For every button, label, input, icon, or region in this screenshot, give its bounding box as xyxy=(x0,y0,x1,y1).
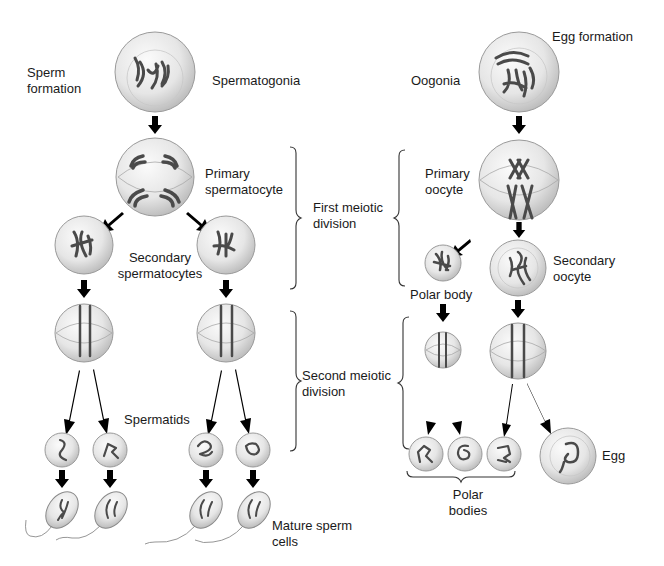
arrow-down-icon xyxy=(55,470,69,488)
arrow-down-icon xyxy=(426,384,439,435)
bracket-second-division-left xyxy=(290,311,301,451)
label-spermatids: Spermatids xyxy=(124,412,190,428)
spermatogonia-cell xyxy=(115,32,195,112)
polar-body-cell xyxy=(409,437,443,471)
second-division-oocyte-cell xyxy=(490,323,546,379)
title-egg-formation: Egg formation xyxy=(552,29,633,45)
bracket-polar-bodies xyxy=(407,471,515,482)
label-spermatogonia: Spermatogonia xyxy=(212,73,300,89)
arrow-down-icon xyxy=(235,369,251,434)
arrow-down-icon xyxy=(219,280,233,298)
primary-oocyte-cell xyxy=(479,140,559,220)
label-primary-spermatocyte: Primary spermatocyte xyxy=(205,166,295,198)
label-oogonia: Oogonia xyxy=(411,73,460,89)
arrow-down-icon xyxy=(449,384,462,435)
second-division-polar-cell xyxy=(425,332,461,368)
label-second-meiotic-division: Second meiotic division xyxy=(302,368,402,400)
spermatid-cell xyxy=(189,433,223,467)
label-secondary-spermatocytes: Secondary spermatocytes xyxy=(115,250,205,282)
arrow-down-icon xyxy=(199,470,213,488)
arrow-down-icon xyxy=(511,300,525,318)
arrow-down-icon xyxy=(527,383,551,434)
label-mature-sperm-cells: Mature sperm cells xyxy=(272,518,362,550)
mature-sperm-cell xyxy=(26,486,85,537)
title-sperm-formation-text: Sperm formation xyxy=(27,65,97,97)
polar-body-cell xyxy=(425,245,461,281)
arrow-down-icon xyxy=(93,369,109,434)
arrow-down-icon xyxy=(148,116,162,134)
title-sperm-formation: Sperm formation xyxy=(27,33,97,113)
egg-cell xyxy=(540,428,596,484)
spermatid-cell xyxy=(236,433,270,467)
arrow-down-icon xyxy=(436,304,450,322)
arrow-down-icon xyxy=(103,470,117,488)
oogonia-cell xyxy=(479,32,559,112)
mature-sperm-cell xyxy=(145,486,229,544)
label-first-meiotic-division: First meiotic division xyxy=(313,200,398,232)
arrow-down-icon xyxy=(502,384,513,437)
polar-body-cell xyxy=(448,437,482,471)
arrow-down-icon xyxy=(206,370,222,435)
secondary-spermatocyte-right-cell xyxy=(197,216,255,274)
arrow-down-icon xyxy=(512,116,526,134)
primary-spermatocyte-cell xyxy=(116,138,194,216)
label-secondary-oocyte: Secondary oocyte xyxy=(553,253,623,285)
arrow-down-icon xyxy=(77,280,91,298)
second-division-sperm-right-cell xyxy=(197,304,255,362)
label-egg: Egg xyxy=(602,448,625,464)
secondary-oocyte-cell xyxy=(490,240,546,296)
second-division-sperm-left-cell xyxy=(55,304,113,362)
label-polar-bodies: Polar bodies xyxy=(443,487,493,519)
label-primary-oocyte: Primary oocyte xyxy=(425,166,485,198)
spermatid-cell xyxy=(93,433,127,467)
spermatid-cell xyxy=(45,433,79,467)
arrow-down-icon xyxy=(513,222,525,238)
secondary-spermatocyte-left-cell xyxy=(55,216,113,274)
polar-body-cell xyxy=(487,437,521,471)
arrow-down-icon xyxy=(64,370,80,435)
arrow-down-icon xyxy=(246,470,260,488)
label-polar-body: Polar body xyxy=(410,287,472,303)
